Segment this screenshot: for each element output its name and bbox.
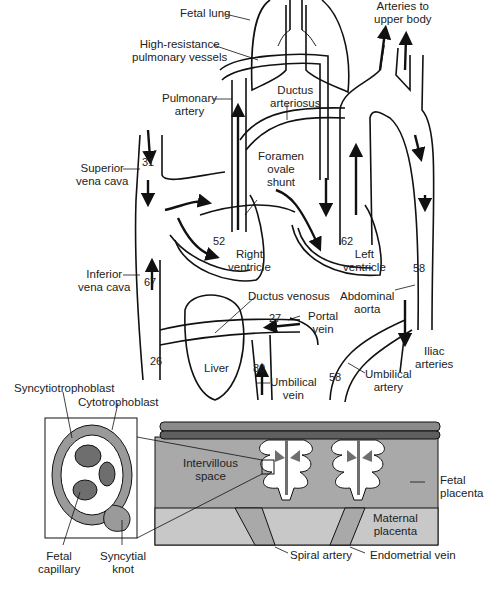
label-line: High-resistance [132, 38, 227, 51]
label-line: Foramen [258, 150, 304, 163]
saturation-inferior-vena-cava: 67 [144, 276, 156, 288]
label-line: upper body [374, 13, 432, 26]
label-intervillous-space: Intervillousspace [183, 457, 238, 483]
label-line: Inferior [78, 268, 130, 281]
fetal-lungs [252, 0, 349, 92]
label-line: ovale [258, 163, 304, 176]
label-line: artery [365, 381, 412, 394]
label-arteries-upper-body: Arteries toupper body [374, 0, 432, 26]
saturation-lower-ivc: 26 [150, 355, 162, 367]
label-line: placenta [373, 525, 418, 538]
label-endometrial-vein: Endometrial vein [370, 549, 456, 562]
label-line: Superior [76, 162, 128, 175]
label-line: space [183, 470, 238, 483]
villus-cross-section-inset [45, 418, 137, 538]
label-line: vena cava [76, 175, 128, 188]
label-line: Umbilical [270, 376, 317, 389]
label-foramen-ovale: Foramenovaleshunt [258, 150, 304, 189]
label-ductus-venosus: Ductus venosus [248, 290, 330, 303]
label-pulmonary-artery: Pulmonaryartery [162, 92, 217, 118]
label-line: pulmonary vessels [132, 51, 227, 64]
label-line: Maternal [373, 512, 418, 525]
label-line: Fetal [440, 474, 483, 487]
label-line: Syncytial [100, 550, 146, 563]
saturation-umbilical-vein: 80 [253, 362, 265, 374]
label-line: Portal [308, 310, 338, 323]
label-line: placenta [440, 487, 483, 500]
label-line: artery [162, 105, 217, 118]
label-line: Abdominal [340, 290, 394, 303]
label-line: Right [228, 248, 271, 261]
saturation-right-ventricle: 52 [213, 235, 225, 247]
label-line: Iliac [415, 345, 453, 358]
label-ductus-arteriosus: Ductusarteriosus [270, 84, 321, 110]
label-abdominal-aorta: Abdominalaorta [340, 290, 394, 316]
label-line: Intervillous [183, 457, 238, 470]
label-liver: Liver [204, 362, 229, 375]
label-umbilical-vein: Umbilicalvein [270, 376, 317, 402]
label-line: arteriosus [270, 97, 321, 110]
label-right-ventricle: Rightventricle [228, 248, 271, 274]
label-maternal-placenta: Maternalplacenta [373, 512, 418, 538]
label-line: knot [100, 563, 146, 576]
label-syncytiotrophoblast: Syncytiotrophoblast [14, 382, 114, 395]
label-line: Ductus [270, 84, 321, 97]
label-line: capillary [38, 563, 80, 576]
label-superior-vena-cava: Superiorvena cava [76, 162, 128, 188]
label-line: vena cava [78, 281, 130, 294]
label-syncytial-knot: Syncytialknot [100, 550, 146, 576]
label-left-ventricle: Leftventricle [343, 248, 386, 274]
label-line: shunt [258, 176, 304, 189]
saturation-portal-vein: 27 [269, 312, 281, 324]
label-fetal-lung: Fetal lung [180, 7, 231, 20]
label-line: Umbilical [365, 368, 412, 381]
label-line: Pulmonary [162, 92, 217, 105]
saturation-superior-vena-cava: 31 [142, 156, 154, 168]
label-inferior-vena-cava: Inferiorvena cava [78, 268, 130, 294]
label-line: vein [308, 323, 338, 336]
label-line: ventricle [228, 261, 271, 274]
label-high-resistance: High-resistancepulmonary vessels [132, 38, 227, 64]
saturation-left-ventricle: 62 [341, 235, 353, 247]
label-cytotrophoblast: Cytotrophoblast [78, 396, 159, 409]
label-line: arteries [415, 358, 453, 371]
label-spiral-artery: Spiral artery [290, 549, 352, 562]
saturation-descending-aorta: 58 [413, 262, 425, 274]
label-line: vein [270, 389, 317, 402]
label-line: Fetal [38, 550, 80, 563]
saturation-umbilical-artery: 58 [329, 371, 341, 383]
label-iliac-arteries: Iliacarteries [415, 345, 453, 371]
label-line: Arteries to [374, 0, 432, 13]
label-fetal-placenta: Fetalplacenta [440, 474, 483, 500]
label-fetal-capillary: Fetalcapillary [38, 550, 80, 576]
label-umbilical-artery: Umbilicalartery [365, 368, 412, 394]
label-portal-vein: Portalvein [308, 310, 338, 336]
label-line: Left [343, 248, 386, 261]
label-line: ventricle [343, 261, 386, 274]
label-line: aorta [340, 303, 394, 316]
